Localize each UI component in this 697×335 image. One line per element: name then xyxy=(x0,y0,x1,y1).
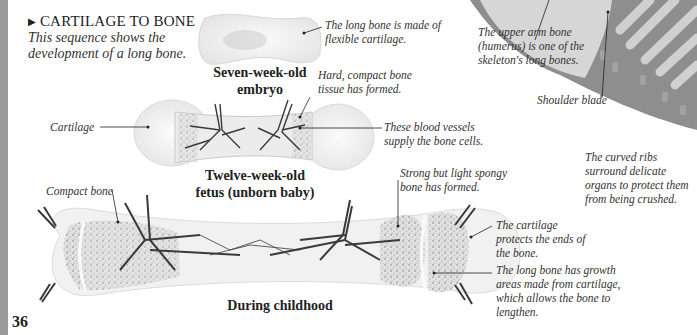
caption-blood-vessels: These blood vessels supply the bone cell… xyxy=(384,120,494,148)
intro-text: This sequence shows the development of a… xyxy=(28,30,208,62)
stage-label-line: fetus (unborn baby) xyxy=(180,184,330,201)
caption-shoulder-blade: Shoulder blade xyxy=(537,93,607,107)
caption-ribs: The curved ribs surround delicate organs… xyxy=(585,150,697,206)
stage-label-line: Twelve-week-old xyxy=(180,167,330,184)
caption-embryo-cartilage: The long bone is made of flexible cartil… xyxy=(325,18,445,46)
stage-label-embryo: Seven-week-old embryo xyxy=(205,64,315,98)
section-heading: ▶CARTILAGE TO BONE xyxy=(28,13,195,30)
triangle-bullet-icon: ▶ xyxy=(28,16,36,27)
caption-compact-tissue: Hard, compact bone tissue has formed. xyxy=(318,68,433,96)
stage-label-line: During childhood xyxy=(200,297,360,314)
stage-label-line: embryo xyxy=(205,81,315,98)
caption-cartilage: Cartilage xyxy=(50,120,94,134)
stage-label-line: Seven-week-old xyxy=(205,64,315,81)
stage-label-childhood: During childhood xyxy=(200,297,360,314)
caption-humerus: The upper arm bone (humerus) is one of t… xyxy=(478,25,588,67)
page-number: 36 xyxy=(12,313,28,331)
caption-cartilage-protects: The cartilage protects the ends of the b… xyxy=(496,218,596,260)
embryo-bone-illustration xyxy=(199,14,322,64)
caption-spongy-bone: Strong but light spongy bone has formed. xyxy=(400,166,510,194)
caption-compact-bone: Compact bone xyxy=(46,184,113,198)
stage-label-fetus: Twelve-week-old fetus (unborn baby) xyxy=(180,167,330,201)
heading-text: CARTILAGE TO BONE xyxy=(40,13,195,29)
fetus-bone-illustration xyxy=(100,97,382,170)
caption-growth-areas: The long bone has growth areas made from… xyxy=(496,263,631,319)
